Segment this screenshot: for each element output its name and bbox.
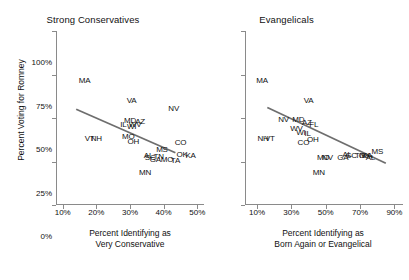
- data-point-label: OH: [128, 136, 140, 145]
- x-tick-label: 50%: [189, 208, 205, 217]
- y-tick: [241, 31, 245, 32]
- y-tick: [52, 31, 56, 32]
- y-tick-label: 50%: [36, 145, 52, 154]
- data-point-label: WV: [129, 120, 142, 129]
- data-point-label: CO: [175, 138, 187, 147]
- data-point-label: MA: [79, 75, 91, 84]
- x-axis-labels-left: 10%20%30%40%50%: [56, 208, 204, 222]
- plot-area-right: MAVANVMDAZFLWVWIILNHVTCOOHMONVALSCGATNOK…: [245, 31, 403, 205]
- data-point-label: GA: [337, 153, 348, 162]
- y-tick: [52, 75, 56, 76]
- x-axis-title-left-line2: Very Conservative: [40, 239, 220, 250]
- panel-title-left: Strong Conservatives: [8, 14, 178, 25]
- data-point-label: VA: [127, 95, 137, 104]
- y-axis-title: Percent Voting for Romney: [16, 35, 26, 185]
- y-tick: [52, 118, 56, 119]
- x-axis-title-right: Percent Identifying as Born Again or Eva…: [223, 228, 409, 250]
- x-tick-label: 50%: [318, 208, 334, 217]
- x-tick-label: 10%: [249, 208, 265, 217]
- data-point-label: OH: [307, 134, 319, 143]
- regression-line-right: [245, 31, 403, 205]
- y-tick: [241, 205, 245, 206]
- y-tick: [52, 205, 56, 206]
- x-tick-label: 40%: [156, 208, 172, 217]
- data-point-label: NV: [278, 114, 289, 123]
- panel-evangelicals: Evangelicals MAVANVMDAZFLWVWIILNHVTCOOHM…: [205, 0, 409, 280]
- y-tick: [241, 162, 245, 163]
- data-point-label: GA: [150, 154, 161, 163]
- data-point-label: IL: [120, 120, 126, 129]
- x-axis-title-right-line1: Percent Identifying as: [223, 228, 409, 239]
- data-point-label: MA: [256, 75, 268, 84]
- plot-area-left: MAVANVMDAZILWIWVVTNHMOOHCOMSOKKAALSCTNGA…: [56, 31, 204, 205]
- x-axis-title-right-line2: Born Again or Evangelical: [223, 239, 409, 250]
- data-point-label: MN: [313, 167, 325, 176]
- x-tick-label: 30%: [122, 208, 138, 217]
- data-point-label: VA: [304, 95, 314, 104]
- panel-strong-conservatives: Strong Conservatives 0%25%50%75%100% MAV…: [0, 0, 205, 280]
- x-tick-label: 10%: [55, 208, 71, 217]
- y-tick: [52, 162, 56, 163]
- data-point-label: VT: [265, 134, 275, 143]
- data-point-label: NH: [91, 134, 102, 143]
- panel-title-right: Evangelicals: [199, 14, 374, 25]
- data-point-label: NV: [168, 104, 179, 113]
- data-point-label: MN: [139, 167, 151, 176]
- y-tick-label: 75%: [36, 101, 52, 110]
- x-tick-label: 20%: [88, 208, 104, 217]
- y-tick: [241, 75, 245, 76]
- x-tick-label: 30%: [283, 208, 299, 217]
- y-axis-labels-right: [191, 31, 243, 205]
- data-point-label: FL: [309, 120, 318, 129]
- data-point-label: MS: [371, 147, 383, 156]
- y-tick-label: 25%: [36, 188, 52, 197]
- y-tick-label: 100%: [32, 58, 52, 67]
- x-axis-title-left: Percent Identifying as Very Conservative: [40, 228, 220, 250]
- x-axis-labels-right: 10%30%50%70%90%: [245, 208, 403, 222]
- x-axis-title-left-line1: Percent Identifying as: [40, 228, 220, 239]
- chart-figure: Strong Conservatives 0%25%50%75%100% MAV…: [0, 0, 409, 280]
- data-point-label: TA: [171, 155, 180, 164]
- y-axis-labels-left: 0%25%50%75%100%: [0, 31, 52, 205]
- x-tick-label: 70%: [352, 208, 368, 217]
- x-tick-label: 90%: [386, 208, 402, 217]
- data-point-label: NV: [322, 153, 333, 162]
- y-tick: [241, 118, 245, 119]
